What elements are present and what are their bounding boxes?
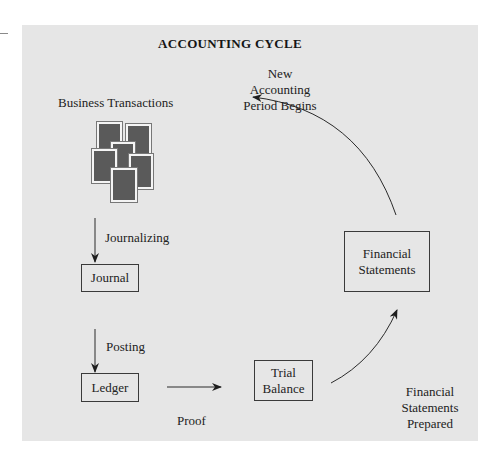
statements-prepared-line3: Prepared bbox=[390, 416, 470, 432]
trial-balance-line1: Trial bbox=[271, 365, 296, 381]
stacked-documents-icon bbox=[90, 120, 156, 204]
posting-label: Posting bbox=[106, 339, 145, 354]
statements-prepared-line1: Financial bbox=[390, 384, 470, 400]
new-period-line1: New bbox=[240, 66, 320, 82]
new-period-line2: Accounting bbox=[240, 82, 320, 98]
journal-box: Journal bbox=[81, 264, 139, 292]
new-period-arrow bbox=[253, 97, 396, 215]
document-icon bbox=[111, 168, 137, 202]
financial-statements-line2: Statements bbox=[358, 262, 415, 278]
business-transactions-label: Business Transactions bbox=[58, 95, 173, 110]
statements-prepared-label: Financial Statements Prepared bbox=[390, 384, 470, 432]
financial-statements-box: Financial Statements bbox=[344, 231, 430, 292]
financial-statements-line1: Financial bbox=[363, 246, 411, 262]
new-period-label: New Accounting Period Begins bbox=[240, 66, 320, 114]
prepare-statements-arrow bbox=[331, 310, 397, 383]
ledger-label: Ledger bbox=[92, 380, 129, 396]
new-period-line3: Period Begins bbox=[240, 98, 320, 114]
journal-label: Journal bbox=[91, 270, 129, 286]
diagram-title: ACCOUNTING CYCLE bbox=[150, 36, 310, 52]
trial-balance-box: Trial Balance bbox=[254, 360, 313, 401]
journalizing-label: Journalizing bbox=[105, 230, 169, 245]
ledger-box: Ledger bbox=[81, 373, 139, 402]
statements-prepared-line2: Statements bbox=[390, 400, 470, 416]
proof-label: Proof bbox=[177, 413, 206, 428]
trial-balance-line2: Balance bbox=[263, 381, 305, 397]
